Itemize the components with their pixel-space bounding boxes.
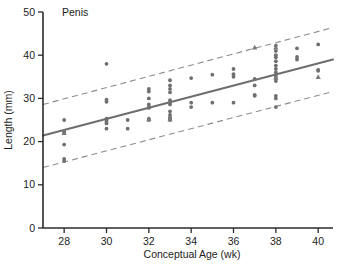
data-point [295, 46, 299, 50]
data-point [295, 58, 299, 62]
data-point [253, 84, 257, 88]
data-point [274, 55, 278, 59]
data-point [105, 100, 109, 104]
data-point [168, 78, 172, 82]
y-tick-label: 0 [29, 222, 35, 234]
data-point [62, 143, 66, 147]
data-point [62, 118, 66, 122]
data-point [189, 105, 193, 109]
x-axis-title: Conceptual Age (wk) [144, 248, 241, 260]
data-point [274, 49, 278, 53]
data-point [105, 127, 109, 131]
y-axis-title: Length (mm) [2, 90, 14, 150]
chart-container: 0102030405028303234363840 Penis Conceptu… [0, 0, 342, 266]
axes: 0102030405028303234363840 [23, 6, 333, 247]
x-tick-label: 36 [228, 235, 240, 247]
data-point [147, 106, 151, 110]
data-point [253, 94, 257, 98]
data-point [274, 67, 278, 71]
axis-labels: Penis Conceptual Age (wk) Length (mm) [2, 6, 240, 260]
data-point-triangle [316, 74, 321, 79]
data-point [232, 75, 236, 79]
data-points [62, 43, 321, 163]
x-tick-label: 34 [185, 235, 197, 247]
data-point [253, 77, 257, 81]
y-tick-label: 20 [23, 135, 35, 147]
data-point [168, 84, 172, 88]
data-point [316, 69, 320, 73]
data-point [274, 59, 278, 63]
panel-title: Penis [62, 6, 88, 18]
data-point [210, 73, 214, 77]
data-point [126, 127, 130, 131]
data-point [232, 101, 236, 105]
data-point [316, 43, 320, 47]
data-point [189, 76, 193, 80]
data-point [147, 90, 151, 94]
data-point [274, 97, 278, 101]
prediction-limit-line-0 [43, 28, 333, 105]
y-tick-label: 30 [23, 92, 35, 104]
data-point [126, 118, 130, 122]
data-point [62, 159, 66, 163]
data-point-triangle [252, 45, 257, 50]
x-tick-label: 32 [143, 235, 155, 247]
data-point [168, 103, 172, 107]
x-tick-label: 28 [58, 235, 70, 247]
data-point [168, 90, 172, 94]
data-point [274, 105, 278, 109]
regression-line [43, 60, 333, 136]
data-point [189, 101, 193, 105]
scatter-plot: 0102030405028303234363840 Penis Conceptu… [0, 0, 342, 266]
y-tick-label: 10 [23, 178, 35, 190]
x-tick-label: 40 [312, 235, 324, 247]
data-point [274, 79, 278, 83]
data-point [147, 97, 151, 101]
regression-fit-line [43, 60, 333, 136]
x-tick-label: 30 [101, 235, 113, 247]
data-point [105, 122, 109, 126]
prediction-limit-line-1 [43, 91, 333, 167]
data-point [274, 64, 278, 68]
y-tick-label: 40 [23, 49, 35, 61]
data-point [105, 62, 109, 66]
y-tick-label: 50 [23, 6, 35, 18]
data-point [168, 87, 172, 91]
data-point [210, 101, 214, 105]
data-point [168, 109, 172, 113]
x-tick-label: 38 [270, 235, 282, 247]
data-point [232, 67, 236, 71]
